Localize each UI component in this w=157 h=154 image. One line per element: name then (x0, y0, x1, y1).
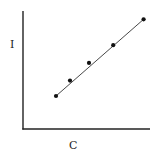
data-point (68, 79, 72, 83)
trend-line (56, 19, 144, 96)
calibration-chart: I C (0, 0, 157, 154)
data-point (54, 94, 58, 98)
data-point (142, 17, 146, 21)
x-axis-label: C (69, 139, 77, 152)
y-axis-label: I (10, 38, 14, 51)
data-point (87, 61, 91, 65)
data-point (111, 43, 115, 47)
